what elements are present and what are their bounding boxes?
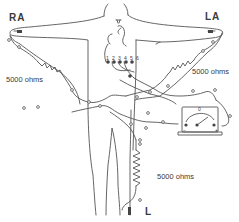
galvanometer-zero-label: 0	[198, 106, 201, 112]
chest-electrode-label-4: 4	[124, 55, 127, 61]
chest-electrode-label-1: 1	[106, 55, 109, 61]
label-left-leg: L	[145, 206, 152, 217]
ecg-lead-diagram	[0, 0, 239, 222]
label-right-arm: RA	[9, 12, 25, 23]
galvanometer-minus-label: −	[183, 127, 186, 133]
body-outline-right-leg	[88, 105, 96, 215]
chest-electrode-label-3: 3	[118, 55, 121, 61]
resistor-label-leg: 5000 ohms	[157, 172, 194, 181]
resistor-label-left-arm: 5000 ohms	[192, 67, 229, 76]
resistor-right-arm	[38, 62, 62, 74]
resistor-label-right-arm: 5000 ohms	[6, 75, 43, 84]
chest-electrode-label-5: 5	[130, 55, 133, 61]
chest-electrode-label-6: 6	[136, 55, 139, 61]
body-outline-right-arm	[10, 16, 104, 105]
chest-electrode-label-2: 2	[112, 55, 115, 61]
chest-electrodes	[106, 60, 134, 78]
electrode-left-arm	[208, 30, 213, 33]
resistor-left-arm	[168, 60, 194, 74]
wire-left-arm	[194, 31, 222, 60]
galvanometer-plus-label: +	[215, 127, 218, 133]
resistor-leg	[133, 150, 140, 186]
label-left-arm: LA	[205, 11, 220, 22]
electrode-right-arm	[17, 30, 22, 33]
electrode-left-leg	[128, 207, 131, 215]
